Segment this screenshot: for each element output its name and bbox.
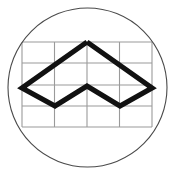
emblem-svg [0, 0, 175, 175]
logo-emblem: Black outlined circle containing a faint… [0, 0, 175, 175]
